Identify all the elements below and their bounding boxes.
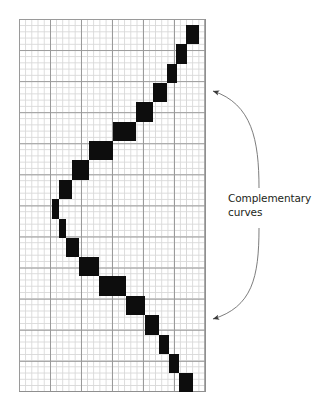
figure-canvas: Complementary curves [0, 0, 316, 413]
step-block [136, 102, 153, 122]
step-block [66, 238, 79, 257]
grid-bottom-rule [19, 391, 206, 392]
step-block [145, 315, 159, 334]
step-block [52, 199, 59, 219]
grid-right-rule [205, 19, 206, 392]
step-block [99, 276, 126, 295]
step-block [79, 257, 99, 276]
annotation-label: Complementary curves [228, 192, 314, 219]
step-block [89, 141, 113, 160]
annotation-line-1: Complementary [228, 192, 314, 206]
step-block [59, 180, 72, 199]
step-block [169, 354, 179, 373]
engineering-grid [19, 19, 205, 392]
step-block [126, 296, 146, 316]
step-block [176, 44, 187, 63]
annotation-line-2: curves [228, 206, 314, 220]
step-block [186, 25, 199, 44]
step-block [179, 373, 193, 392]
step-block [72, 160, 89, 179]
step-block [59, 219, 66, 238]
lower-arrow-curve [213, 228, 259, 319]
step-block [167, 64, 178, 83]
step-block [153, 83, 167, 102]
upper-arrow-curve [213, 91, 259, 188]
step-block [113, 122, 137, 141]
step-block [159, 335, 169, 354]
